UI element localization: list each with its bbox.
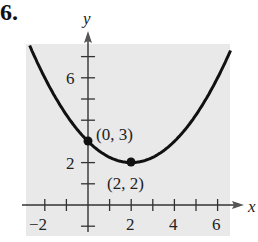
- point-label-2-2: (2, 2): [107, 174, 144, 193]
- figure: 6. x y −2 2 4 6 2 6 (0, 3) (2, 2): [0, 0, 258, 242]
- x-axis-label: x: [247, 197, 256, 216]
- x-tick-label-4: 4: [169, 215, 178, 234]
- x-tick-label-6: 6: [212, 215, 221, 234]
- y-tick-label-2: 2: [66, 154, 75, 173]
- point-2-2: [127, 158, 136, 167]
- point-label-0-3: (0, 3): [96, 125, 133, 144]
- problem-number: 6.: [0, 0, 18, 25]
- point-0-3: [84, 137, 93, 146]
- parabola-graph: 6. x y −2 2 4 6 2 6 (0, 3) (2, 2): [0, 0, 258, 242]
- y-tick-label-6: 6: [66, 69, 75, 88]
- x-tick-label-2: 2: [126, 215, 135, 234]
- x-tick-label-neg2: −2: [29, 215, 47, 234]
- y-axis-label: y: [81, 9, 91, 28]
